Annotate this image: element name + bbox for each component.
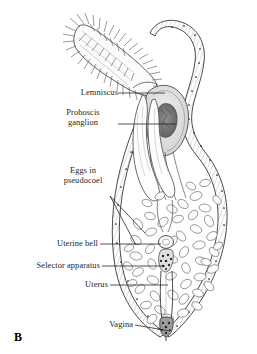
label-uterine-bell: Uterine bell <box>10 239 98 249</box>
figure-panel-b: Lemniscus Proboscis ganglion Eggs in pse… <box>0 0 257 354</box>
label-lemniscus: Lemniscus <box>30 88 118 98</box>
selector-apparatus <box>159 249 174 272</box>
panel-letter: B <box>14 330 22 345</box>
uterine-bell-lumen <box>162 239 169 245</box>
proboscis-body <box>74 25 157 96</box>
label-proboscis-ganglion-line2: ganglion <box>52 118 114 128</box>
label-selector-apparatus: Selector apparatus <box>2 261 100 271</box>
label-uterus: Uterus <box>40 280 108 290</box>
anatomical-drawing <box>0 0 257 354</box>
label-eggs-in-pseudocoel: Eggs in pseudocoel <box>52 166 114 186</box>
label-proboscis-ganglion: Proboscis ganglion <box>52 108 114 128</box>
ligament-sac <box>157 199 163 232</box>
label-eggs-line1: Eggs in <box>52 166 114 176</box>
label-vagina: Vagina <box>75 320 133 330</box>
vagina <box>160 317 173 341</box>
label-proboscis-ganglion-line1: Proboscis <box>52 108 114 118</box>
label-eggs-line2: pseudocoel <box>52 176 114 186</box>
